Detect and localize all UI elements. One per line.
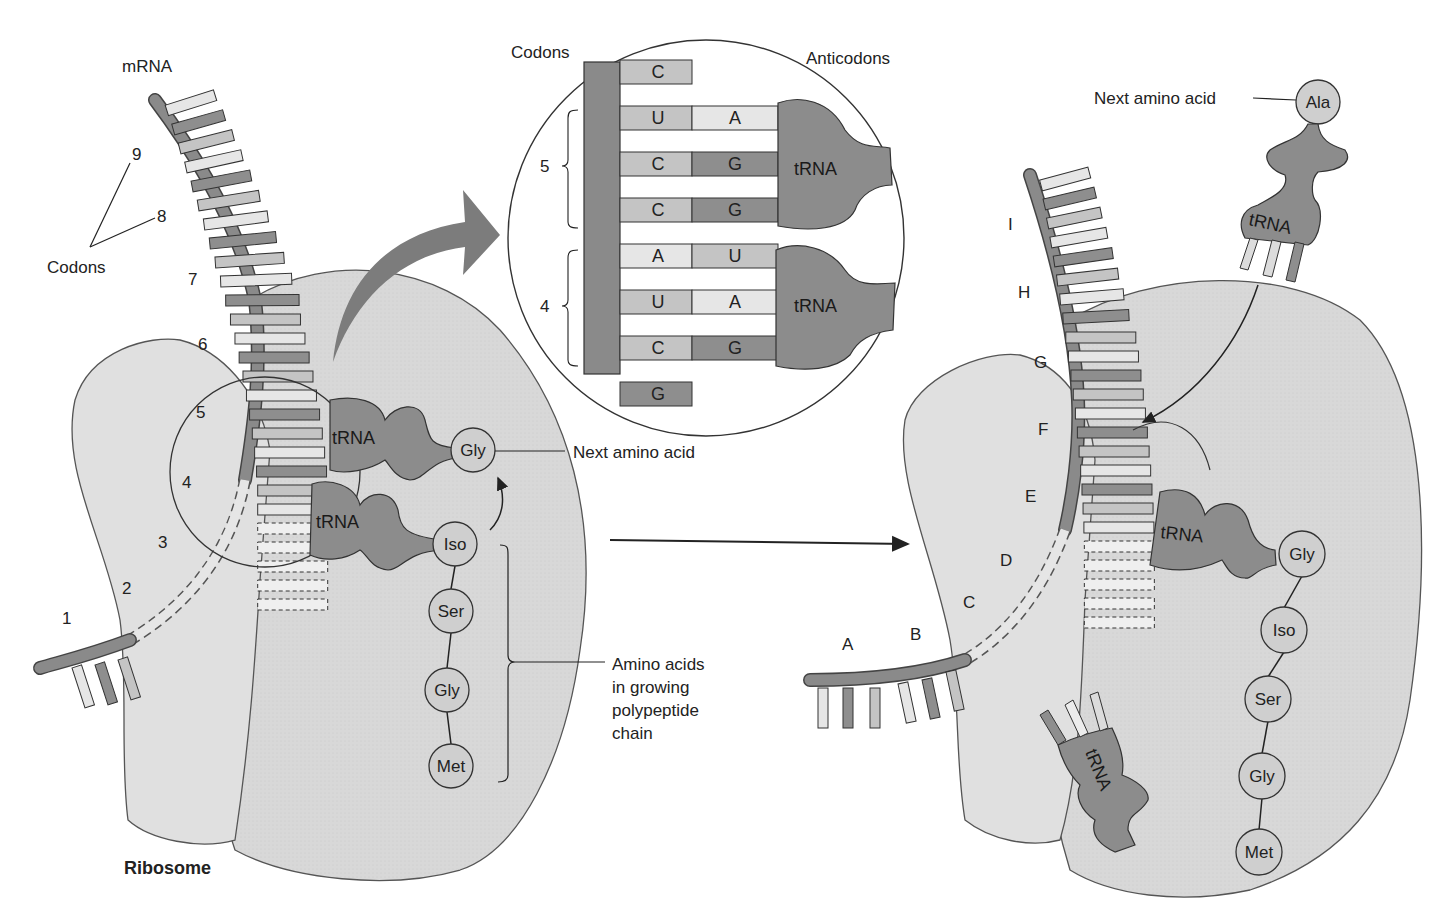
mrna-base bbox=[1043, 187, 1096, 210]
mrna-base bbox=[818, 688, 828, 728]
codon-letter-I: I bbox=[1008, 215, 1013, 234]
mrna-base bbox=[1083, 503, 1153, 514]
mrna-base bbox=[898, 682, 916, 723]
inset-trna-label-4: tRNA bbox=[794, 296, 837, 316]
codon-letter-F: F bbox=[1038, 420, 1048, 439]
amino-acid-label: Gly bbox=[434, 681, 460, 700]
mrna-base bbox=[215, 252, 284, 268]
mrna-base bbox=[1057, 268, 1119, 286]
amino-acid-label: Iso bbox=[444, 535, 467, 554]
inset-anticodons-header: Anticodons bbox=[806, 49, 890, 68]
amino-acid-gly-next-label: Gly bbox=[460, 441, 486, 460]
codons-label: Codons bbox=[47, 258, 106, 277]
mrna-base bbox=[239, 352, 309, 363]
amino-acid-label: Gly bbox=[1249, 767, 1275, 786]
trna-label-p: tRNA bbox=[316, 512, 359, 532]
mrna-base bbox=[1068, 351, 1138, 362]
codon-letter-C: C bbox=[963, 593, 975, 612]
translation-diagram: 987654321 Codons mRNA tRNA tRNA Gly Next… bbox=[0, 0, 1445, 920]
mrna-base bbox=[843, 688, 853, 728]
group5-pair3-anticodon-letter: G bbox=[728, 200, 742, 220]
mrna-base bbox=[220, 273, 291, 287]
group5-pair2-anticodon-letter: G bbox=[728, 154, 742, 174]
mrna-base bbox=[243, 371, 313, 382]
codon-letter-B: B bbox=[910, 625, 921, 644]
mrna-base bbox=[258, 599, 328, 610]
mrna-base bbox=[1040, 167, 1091, 191]
mrna-base bbox=[72, 665, 94, 708]
mrna-base bbox=[1053, 248, 1113, 267]
group4-pair3-codon-letter: C bbox=[652, 338, 665, 358]
next-amino-acid-label: Next amino acid bbox=[573, 443, 695, 462]
mrna-base bbox=[1073, 389, 1143, 400]
next-amino-acid-pointer-right bbox=[1253, 98, 1296, 100]
mrna-base bbox=[1084, 598, 1154, 609]
amino-acid-label: Gly bbox=[1289, 545, 1315, 564]
amino-acid-label: Iso bbox=[1273, 621, 1296, 640]
inset-codons-header: Codons bbox=[511, 43, 570, 62]
mrna-base bbox=[1050, 227, 1108, 248]
mrna-base bbox=[252, 428, 322, 439]
trna-label-a: tRNA bbox=[332, 428, 375, 448]
codons-pointer-8 bbox=[90, 218, 155, 247]
mrna-base bbox=[255, 447, 325, 458]
group5-pair3-codon-letter: C bbox=[652, 200, 665, 220]
codon-number-6: 6 bbox=[198, 335, 207, 354]
polypeptide-label-line4: chain bbox=[612, 724, 653, 743]
next-amino-acid-label-right: Next amino acid bbox=[1094, 89, 1216, 108]
amino-acid-ala-label: Ala bbox=[1306, 93, 1331, 112]
mrna-base bbox=[1046, 207, 1102, 229]
mrna-base bbox=[165, 90, 217, 116]
mrna-base bbox=[1082, 484, 1152, 495]
ribosome-small-subunit bbox=[72, 339, 270, 844]
mrna-base bbox=[922, 678, 940, 719]
mrna-label: mRNA bbox=[122, 57, 173, 76]
mrna-base bbox=[1084, 522, 1154, 533]
codon-number-8: 8 bbox=[157, 207, 166, 226]
group5-pair1-anticodon-letter: A bbox=[729, 108, 741, 128]
codon-number-7: 7 bbox=[188, 270, 197, 289]
mrna-base bbox=[250, 409, 320, 420]
ribosome-label: Ribosome bbox=[124, 858, 211, 878]
step-transition-arrow bbox=[610, 540, 908, 544]
diagram-canvas: 987654321 Codons mRNA tRNA tRNA Gly Next… bbox=[0, 0, 1445, 920]
mrna-base bbox=[1079, 446, 1149, 457]
mrna-base bbox=[246, 390, 316, 401]
mrna-base bbox=[1084, 579, 1154, 590]
incoming-trna: tRNA bbox=[1240, 124, 1348, 282]
group4-pair3-anticodon-letter: G bbox=[728, 338, 742, 358]
group4-pair2-codon-letter: U bbox=[652, 292, 665, 312]
group5-pair2-codon-letter: C bbox=[652, 154, 665, 174]
codon-letter-D: D bbox=[1000, 551, 1012, 570]
mrna-base bbox=[1084, 617, 1154, 628]
mrna-base bbox=[1066, 332, 1136, 343]
codon-letter-A: A bbox=[842, 635, 854, 654]
unpaired-bottom-codon-letter: G bbox=[651, 384, 665, 404]
inset-trna-label-5: tRNA bbox=[794, 159, 837, 179]
mrna-base bbox=[257, 466, 327, 477]
polypeptide-label-line3: polypeptide bbox=[612, 701, 699, 720]
codon-number-9: 9 bbox=[132, 145, 141, 164]
inset-codon-number-5: 5 bbox=[540, 157, 549, 176]
codon-letter-G: G bbox=[1034, 353, 1047, 372]
group4-pair1-anticodon-letter: U bbox=[729, 246, 742, 266]
inset-codon-number-4: 4 bbox=[540, 297, 549, 316]
mrna-base bbox=[1084, 541, 1154, 552]
amino-acid-label: Ser bbox=[438, 602, 465, 621]
polypeptide-label-line2: in growing bbox=[612, 678, 690, 697]
polypeptide-label-line1: Amino acids bbox=[612, 655, 705, 674]
mrna-base bbox=[870, 688, 880, 728]
mrna-base bbox=[235, 333, 305, 344]
mrna-base bbox=[1084, 560, 1154, 571]
inset-circle bbox=[508, 40, 904, 436]
mrna-base bbox=[1071, 370, 1141, 381]
amino-acid-label: Met bbox=[1245, 843, 1274, 862]
unpaired-top-codon-letter: C bbox=[652, 62, 665, 82]
codon-letter-E: E bbox=[1025, 487, 1036, 506]
group4-pair1-codon-letter: A bbox=[652, 246, 664, 266]
right-panel: IHGFEDCBA Ala Next amino acid tRNA tRNA … bbox=[810, 80, 1422, 897]
codon-number-1: 1 bbox=[62, 609, 71, 628]
amino-acid-label: Ser bbox=[1255, 690, 1282, 709]
codons-pointer-9 bbox=[90, 163, 130, 247]
codon-number-2: 2 bbox=[122, 579, 131, 598]
